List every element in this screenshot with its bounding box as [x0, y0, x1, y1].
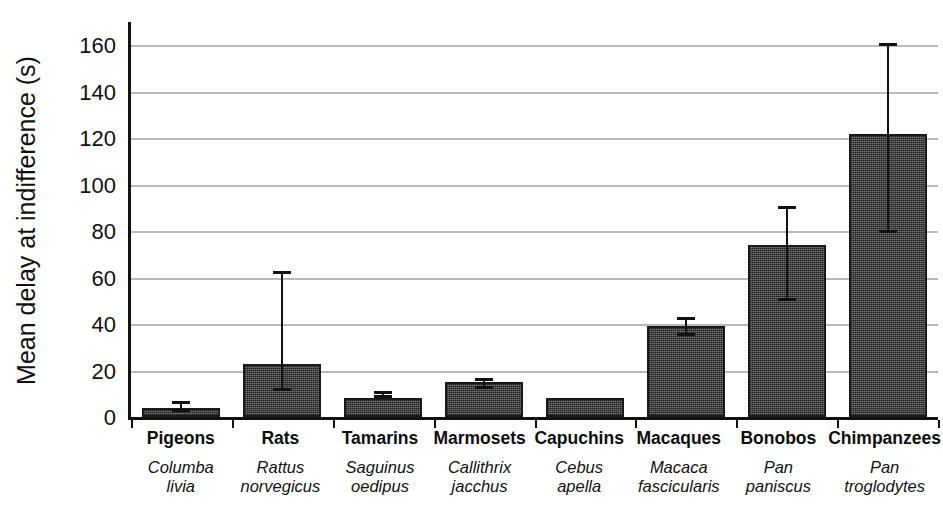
scientific-name-genus: Saguinus [330, 458, 430, 477]
y-axis-tick-label: 120 [79, 126, 116, 152]
x-axis-scientific-name: Cebusapella [529, 458, 629, 496]
x-axis-label-group: MarmosetsCallithrixjacchus [430, 428, 530, 526]
x-axis-tick [736, 420, 738, 428]
x-axis-category-labels: PigeonsColumbaliviaRatsRattusnorvegicusT… [131, 428, 941, 526]
scientific-name-genus: Callithrix [430, 458, 530, 477]
x-axis-label-group: PigeonsColumbalivia [131, 428, 231, 526]
y-axis-tick-label: 40 [92, 312, 116, 338]
x-axis-common-name: Pigeons [131, 428, 231, 449]
bar-slot [434, 22, 535, 417]
x-axis-tick [938, 420, 940, 428]
chart-figure: Mean delay at indifference (s) 020406080… [0, 0, 943, 526]
x-axis-line [128, 417, 938, 420]
error-bar-cap-lower [677, 333, 695, 336]
error-bar-cap-lower [374, 395, 392, 398]
scientific-name-species: troglodytes [828, 477, 941, 496]
error-bar-cap-upper [172, 401, 190, 404]
y-axis-tick-label: 80 [92, 219, 116, 245]
x-axis-scientific-name: Saguinusoedipus [330, 458, 430, 496]
scientific-name-species: apella [529, 477, 629, 496]
x-axis-scientific-name: Panpaniscus [729, 458, 829, 496]
scientific-name-genus: Cebus [529, 458, 629, 477]
bar-series [131, 22, 938, 417]
bar-slot [736, 22, 837, 417]
x-axis-common-name: Rats [231, 428, 331, 449]
y-axis-tick-label: 140 [79, 80, 116, 106]
error-bar-line [786, 206, 788, 301]
error-bar-cap-lower [475, 386, 493, 389]
y-axis-tick-label: 20 [92, 359, 116, 385]
bar-slot [333, 22, 434, 417]
scientific-name-genus: Macaca [629, 458, 729, 477]
x-axis-tick [635, 420, 637, 428]
error-bar-cap-upper [475, 378, 493, 381]
x-axis-label-group: BonobosPanpaniscus [729, 428, 829, 526]
scientific-name-species: jacchus [430, 477, 530, 496]
bar[interactable] [647, 326, 725, 417]
x-axis-common-name: Tamarins [330, 428, 430, 449]
bar[interactable] [546, 398, 624, 417]
y-axis-tick-labels: 020406080100120140160 [52, 0, 124, 440]
x-axis-tick [333, 420, 335, 428]
bar-slot [535, 22, 636, 417]
y-axis-tick-label: 100 [79, 173, 116, 199]
x-axis-scientific-name: Callithrixjacchus [430, 458, 530, 496]
y-axis-title-text: Mean delay at indifference (s) [12, 56, 41, 385]
scientific-name-species: livia [131, 477, 231, 496]
x-axis-tick [232, 420, 234, 428]
scientific-name-species: norvegicus [231, 477, 331, 496]
y-axis-title: Mean delay at indifference (s) [0, 0, 52, 440]
x-axis-label-group: CapuchinsCebusapella [529, 428, 629, 526]
x-axis-tick [535, 420, 537, 428]
x-axis-scientific-name: Rattusnorvegicus [231, 458, 331, 496]
scientific-name-species: oedipus [330, 477, 430, 496]
bar-slot [232, 22, 333, 417]
bar[interactable] [344, 398, 422, 417]
x-axis-tick [837, 420, 839, 428]
error-bar-line [281, 271, 283, 392]
error-bar-cap-upper [778, 206, 796, 209]
y-axis-tick-label: 0 [104, 405, 116, 431]
y-axis-tick-label: 160 [79, 33, 116, 59]
x-axis-scientific-name: Pantroglodytes [828, 458, 941, 496]
x-axis-common-name: Marmosets [430, 428, 530, 449]
scientific-name-genus: Columba [131, 458, 231, 477]
error-bar-cap-upper [273, 271, 291, 274]
error-bar-cap-upper [879, 43, 897, 46]
x-axis-scientific-name: Macacafascicularis [629, 458, 729, 496]
scientific-name-species: fascicularis [629, 477, 729, 496]
scientific-name-genus: Pan [729, 458, 829, 477]
scientific-name-species: paniscus [729, 477, 829, 496]
x-axis-tick [131, 420, 133, 428]
plot-area [128, 22, 938, 420]
x-axis-label-group: RatsRattusnorvegicus [231, 428, 331, 526]
error-bar-cap-upper [374, 391, 392, 394]
x-axis-scientific-name: Columbalivia [131, 458, 231, 496]
x-axis-common-name: Capuchins [529, 428, 629, 449]
bar-slot [131, 22, 232, 417]
error-bar-cap-lower [273, 388, 291, 391]
scientific-name-genus: Rattus [231, 458, 331, 477]
x-axis-common-name: Chimpanzees [828, 428, 941, 449]
y-axis-tick-label: 60 [92, 266, 116, 292]
error-bar-cap-lower [172, 409, 190, 412]
x-axis-label-group: ChimpanzeesPantroglodytes [828, 428, 941, 526]
error-bar-cap-upper [677, 317, 695, 320]
x-axis-common-name: Macaques [629, 428, 729, 449]
x-axis-label-group: TamarinsSaguinusoedipus [330, 428, 430, 526]
x-axis-label-group: MacaquesMacacafascicularis [629, 428, 729, 526]
bar-slot [837, 22, 938, 417]
error-bar-line [887, 43, 889, 234]
bar-slot [635, 22, 736, 417]
scientific-name-genus: Pan [828, 458, 941, 477]
error-bar-cap-lower [879, 230, 897, 233]
x-axis-common-name: Bonobos [729, 428, 829, 449]
error-bar-cap-lower [778, 298, 796, 301]
x-axis-tick [434, 420, 436, 428]
